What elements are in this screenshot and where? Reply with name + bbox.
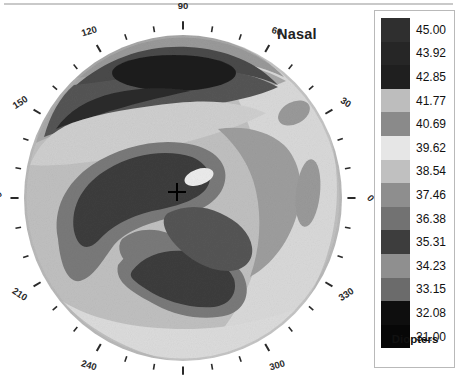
color-scale-value: 36.38 xyxy=(410,213,446,225)
color-scale-row[interactable]: 43.92 xyxy=(381,42,449,66)
window-top-divider xyxy=(4,3,453,5)
color-scale-swatch xyxy=(381,301,410,325)
crosshair-marker xyxy=(166,181,188,203)
color-scale-row[interactable]: 33.15 xyxy=(381,278,449,302)
polar-tick xyxy=(153,364,154,370)
color-scale-value: 43.92 xyxy=(410,47,446,59)
color-scale-row[interactable]: 37.46 xyxy=(381,183,449,207)
color-scale-units-label: Diopters xyxy=(381,333,449,345)
color-scale-swatch xyxy=(381,65,410,89)
color-scale-swatch xyxy=(381,18,410,42)
color-scale-rows: 45.0043.9242.8541.7740.6939.6238.5437.46… xyxy=(381,18,449,348)
color-scale-row[interactable]: 36.38 xyxy=(381,207,449,231)
color-scale-swatch xyxy=(381,183,410,207)
color-scale-value: 42.85 xyxy=(410,71,446,83)
topography-disc[interactable] xyxy=(22,33,344,363)
region-superior-core xyxy=(112,55,236,91)
color-scale-swatch xyxy=(381,89,410,113)
color-scale-row[interactable]: 39.62 xyxy=(381,136,449,160)
degree-label-180: 180 xyxy=(0,188,4,207)
polar-tick xyxy=(15,227,21,228)
color-scale-swatch xyxy=(381,42,410,66)
color-scale-row[interactable]: 32.08 xyxy=(381,301,449,325)
diopter-color-scale[interactable]: 45.0043.9242.8541.7740.6939.6238.5437.46… xyxy=(372,8,457,381)
polar-tick xyxy=(212,26,213,32)
corneal-topography-map[interactable]: Nasal xyxy=(0,8,368,381)
color-scale-swatch xyxy=(381,160,410,184)
color-scale-swatch xyxy=(381,278,410,302)
color-scale-value: 38.54 xyxy=(410,165,446,177)
color-scale-value: 40.69 xyxy=(410,118,446,130)
color-scale-value: 35.31 xyxy=(410,236,446,248)
degree-label-90: 90 xyxy=(178,0,189,11)
color-scale-row[interactable]: 38.54 xyxy=(381,160,449,184)
color-scale-value: 32.08 xyxy=(410,307,446,319)
color-scale-value: 41.77 xyxy=(410,95,446,107)
polar-tick xyxy=(15,168,21,169)
color-scale-value: 39.62 xyxy=(410,142,446,154)
polar-tick xyxy=(153,26,154,32)
color-scale-value: 45.00 xyxy=(410,24,446,36)
color-scale-row[interactable]: 40.69 xyxy=(381,112,449,136)
color-scale-swatch xyxy=(381,207,410,231)
color-scale-swatch xyxy=(381,136,410,160)
color-scale-value: 37.46 xyxy=(410,189,446,201)
color-scale-swatch xyxy=(381,230,410,254)
color-scale-value: 33.15 xyxy=(410,283,446,295)
color-scale-row[interactable]: 41.77 xyxy=(381,89,449,113)
color-scale-row[interactable]: 34.23 xyxy=(381,254,449,278)
color-scale-row[interactable]: 35.31 xyxy=(381,230,449,254)
color-scale-value: 34.23 xyxy=(410,260,446,272)
color-scale-row[interactable]: 45.00 xyxy=(381,18,449,42)
color-scale-swatch xyxy=(381,254,410,278)
polar-tick xyxy=(345,227,351,228)
color-scale-row[interactable]: 42.85 xyxy=(381,65,449,89)
polar-tick xyxy=(345,168,351,169)
polar-tick xyxy=(212,364,213,370)
color-scale-swatch xyxy=(381,112,410,136)
